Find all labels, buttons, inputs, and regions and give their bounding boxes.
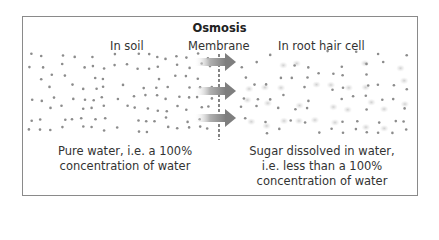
sugar-molecules-cell — [243, 60, 409, 131]
caption-cell-line2: i.e. less than a 100% — [242, 159, 402, 174]
caption-cell-line1: Sugar dissolved in water, — [242, 144, 402, 159]
caption-cell-line3: concentration of water — [242, 174, 402, 189]
caption-soil-line2: concentration of water — [40, 159, 210, 174]
arrow-icon — [194, 109, 236, 127]
water-molecules-soil — [28, 52, 214, 133]
arrow-icon — [194, 82, 236, 100]
water-molecules-cell — [240, 50, 408, 135]
caption-cell: Sugar dissolved in water, i.e. less than… — [242, 144, 402, 189]
caption-soil: Pure water, i.e. a 100% concentration of… — [40, 144, 210, 174]
caption-soil-line1: Pure water, i.e. a 100% — [40, 144, 210, 159]
arrow-icon — [194, 53, 236, 71]
